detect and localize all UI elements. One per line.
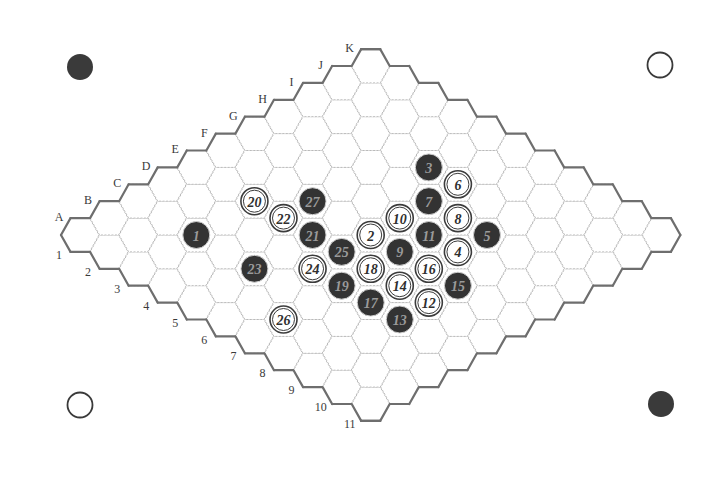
move-number: 13 (393, 313, 407, 328)
move-number: 24 (305, 262, 320, 277)
move-number: 21 (305, 229, 320, 244)
move-number: 4 (453, 245, 461, 260)
stone-move-8: 8 (444, 205, 471, 232)
stone-move-9: 9 (386, 238, 413, 265)
stone-move-22: 22 (270, 205, 297, 232)
stone-move-21: 21 (299, 222, 326, 249)
number-label-4: 4 (143, 299, 149, 313)
stone-move-12: 12 (415, 289, 442, 316)
number-label-2: 2 (85, 265, 91, 279)
move-number: 1 (193, 229, 200, 244)
stone-move-5: 5 (473, 222, 500, 249)
corner-marker-bottom-right-black-icon (648, 391, 674, 417)
move-number: 10 (393, 212, 407, 227)
stone-move-6: 6 (444, 171, 471, 198)
stone-move-4: 4 (444, 238, 471, 265)
stone-move-20: 20 (241, 188, 268, 215)
number-label-5: 5 (172, 316, 178, 330)
corner-marker-bottom-left-white-icon (68, 393, 93, 418)
stone-move-24: 24 (299, 255, 326, 282)
move-number: 5 (483, 229, 490, 244)
move-number: 12 (422, 296, 436, 311)
move-number: 2 (366, 229, 374, 244)
move-number: 23 (246, 262, 261, 277)
stone-move-1: 1 (183, 222, 210, 249)
move-number: 19 (335, 279, 349, 294)
move-number: 9 (396, 245, 403, 260)
stone-move-25: 25 (328, 238, 355, 265)
stone-move-2: 2 (357, 222, 384, 249)
letter-label-J: J (318, 58, 323, 72)
move-number: 20 (246, 195, 261, 210)
move-number: 25 (334, 245, 349, 260)
move-number: 8 (454, 212, 461, 227)
move-number: 22 (275, 212, 290, 227)
move-number: 18 (364, 262, 378, 277)
move-number: 6 (454, 178, 461, 193)
move-number: 16 (422, 262, 436, 277)
stone-move-16: 16 (415, 255, 442, 282)
move-number: 17 (364, 296, 379, 311)
move-number: 3 (424, 161, 432, 176)
stone-move-18: 18 (357, 255, 384, 282)
number-label-6: 6 (201, 333, 207, 347)
hex-board: ABCDEFGHIJK1234567891011 123456789101112… (0, 0, 715, 485)
number-label-1: 1 (56, 248, 62, 262)
letter-label-E: E (172, 142, 179, 156)
number-label-9: 9 (289, 383, 295, 397)
number-label-7: 7 (230, 349, 236, 363)
corner-marker-top-left-black-icon (67, 54, 93, 80)
number-label-8: 8 (259, 366, 265, 380)
move-number: 26 (275, 313, 290, 328)
stone-move-10: 10 (386, 205, 413, 232)
stone-move-27: 27 (299, 188, 326, 215)
letter-label-A: A (55, 210, 64, 224)
letter-label-I: I (290, 75, 294, 89)
stone-move-14: 14 (386, 272, 413, 299)
stone-move-13: 13 (386, 306, 413, 333)
number-label-11: 11 (344, 417, 356, 431)
stone-move-17: 17 (357, 289, 384, 316)
stone-move-26: 26 (270, 306, 297, 333)
move-number: 7 (425, 195, 433, 210)
stone-move-3: 3 (415, 154, 442, 181)
letter-label-G: G (229, 109, 238, 123)
letter-label-B: B (84, 193, 92, 207)
move-number: 11 (422, 229, 435, 244)
letter-label-F: F (201, 126, 208, 140)
stone-move-23: 23 (241, 255, 268, 282)
stone-move-15: 15 (444, 272, 471, 299)
letter-label-D: D (142, 159, 151, 173)
stone-move-11: 11 (415, 222, 442, 249)
letter-label-K: K (345, 41, 354, 55)
number-label-3: 3 (114, 282, 120, 296)
hex-board-canvas: ABCDEFGHIJK1234567891011 123456789101112… (0, 0, 715, 485)
number-label-10: 10 (315, 400, 327, 414)
corner-marker-top-right-white-icon (648, 53, 673, 78)
stone-move-19: 19 (328, 272, 355, 299)
move-number: 15 (451, 279, 465, 294)
move-number: 14 (393, 279, 407, 294)
stone-move-7: 7 (415, 188, 442, 215)
letter-label-C: C (113, 176, 121, 190)
letter-label-H: H (258, 92, 267, 106)
move-number: 27 (305, 195, 321, 210)
